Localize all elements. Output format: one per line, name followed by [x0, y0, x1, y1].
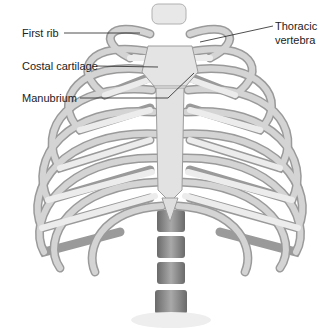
label-manubrium: Manubrium: [22, 92, 77, 105]
rib-cage-diagram: First rib Costal cartilage Manubrium Tho…: [0, 0, 335, 331]
rib-cage-illustration: [0, 0, 335, 331]
label-first-rib: First rib: [22, 27, 59, 40]
label-thoracic-vertebra-line2: vertebra: [275, 34, 315, 47]
label-costal-cartilage: Costal cartilage: [22, 60, 98, 73]
label-thoracic-vertebra-line1: Thoracic: [275, 20, 317, 33]
